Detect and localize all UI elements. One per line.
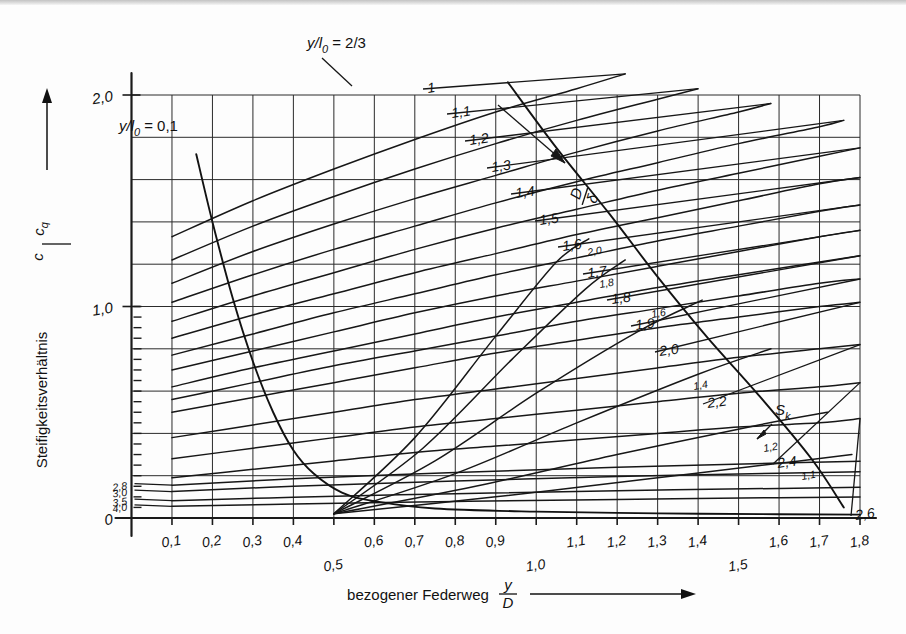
x-tick-label: 0,1: [160, 532, 182, 551]
x-tick-label: 0,8: [444, 532, 466, 551]
x-tick-label: 1,6: [767, 532, 789, 551]
curve-label-leader: [773, 383, 860, 464]
curve-label-leader: [703, 345, 860, 404]
curve-label-leader: [135, 499, 172, 501]
curve-label-sk: 2,0: [585, 244, 603, 259]
x-fraction-denominator: D: [503, 594, 514, 611]
curve-h0t: [172, 103, 771, 283]
x-axis-fraction: yD: [499, 576, 517, 611]
x-tick-label: 0,2: [201, 532, 223, 551]
x-axis-title-text: bezogener Federweg: [347, 586, 489, 603]
curve-label-sk: 1,6: [650, 306, 667, 320]
curve-h0t: [172, 256, 860, 387]
curve-label-h0t: 1,6: [561, 235, 583, 254]
x-tick-label: 1,5: [727, 556, 749, 575]
y-fraction-numerator: c: [29, 253, 46, 261]
curve-label-h0t: 2,0: [657, 340, 680, 359]
curve-label-h0t: 1,1: [450, 102, 472, 121]
arrow-pointer-head-icon: [757, 430, 766, 439]
annotation-text: y/l0= 2/3: [306, 34, 366, 55]
curve-h0t: [172, 279, 860, 400]
nomogram-chart: 11,11,21,31,41,51,61,71,81,92,02,22,42,6…: [0, 0, 906, 634]
x-tick-label: 0,3: [241, 532, 263, 551]
x-tick-label: 1,3: [646, 532, 668, 551]
ratio-fraction: Dδ: [565, 182, 603, 210]
curve-label-h0t: 1: [426, 79, 436, 96]
curve-h0t: [172, 120, 844, 302]
x-tick-label: 1,4: [686, 532, 708, 551]
boundary-curve-y-l0-0-1: [196, 154, 860, 514]
curve-h0t: [172, 148, 860, 321]
annotation-leader: [322, 58, 352, 86]
x-tick-labels: 0,10,20,30,40,50,60,70,80,91,01,11,21,31…: [160, 531, 870, 574]
curve-label-sk: 1,8: [598, 276, 615, 290]
curve-label-leader: [423, 74, 625, 89]
sk-label: Sk: [775, 401, 791, 422]
x-tick-label: 0,9: [484, 532, 506, 551]
curve-label-h0t-flat: 4,0: [112, 500, 128, 514]
boundary-curve-y-l0-2-3: [508, 82, 844, 507]
curve-label-h0t: 1,4: [514, 182, 536, 201]
curve-label-h0t: 2,4: [775, 452, 798, 471]
curve-label-leader: [135, 505, 172, 507]
curve-label-h0t: 1,2: [468, 129, 490, 148]
curve-label-h0t: 1,3: [490, 156, 512, 175]
curve-labels: 11,11,21,31,41,51,61,71,81,92,02,22,42,6…: [111, 79, 876, 523]
curve-h0t: [172, 302, 860, 412]
x-tick-label: 1,2: [606, 532, 628, 551]
x-tick-label: 0,7: [403, 531, 426, 550]
figure-root: 11,11,21,31,41,51,61,71,81,92,02,22,42,6…: [0, 0, 906, 634]
y-tick-labels: 01,02,0: [90, 87, 115, 528]
curve-label-h0t: 1,5: [538, 209, 560, 228]
curve-label-h0t: 1,8: [610, 288, 632, 307]
up-arrow-head-icon: [42, 88, 52, 103]
x-fraction-numerator: y: [503, 576, 513, 593]
y-axis-title-text: Steifigkeitsverhältnis: [33, 332, 50, 469]
x-tick-label: 1,0: [525, 556, 547, 575]
y-axis-fraction: ccq: [29, 221, 71, 260]
x-tick-label: 0,5: [322, 556, 344, 575]
axis-titles: Steifigkeitsverhältnisccqbezogener Feder…: [29, 88, 696, 611]
curve-label-h0t: 2,6: [853, 504, 876, 523]
curve-label-leader: [511, 148, 860, 194]
annotation-text: y/l0= 0,1: [118, 117, 178, 138]
data-curves: [172, 74, 860, 515]
curve-label-sk: 1,2: [762, 440, 779, 454]
x-axis-title: bezogener FederwegyD: [347, 576, 696, 611]
x-tick-label: 1,7: [808, 531, 831, 550]
annotation-y-l0-0-1: y/l0= 0,1: [118, 117, 178, 138]
x-tick-label: 1,8: [848, 532, 870, 551]
curve-label-h0t: 2,2: [705, 392, 728, 411]
y-tick-label: 1,0: [91, 299, 115, 319]
curve-label-leader: [447, 89, 698, 114]
x-tick-label: 0,4: [282, 532, 304, 551]
curve-label-leader: [135, 490, 172, 492]
curve-h0t: [172, 89, 698, 260]
right-arrow-head-icon: [681, 589, 696, 599]
annotation-y-l0-two-thirds: y/l0= 2/3: [306, 34, 366, 86]
x-tick-label: 0,6: [363, 532, 385, 551]
curve-label-leader: [655, 302, 860, 352]
curve-label-sk: 1,1: [800, 468, 816, 482]
curve-label-leader: [607, 256, 860, 300]
x-tick-label: 1,1: [565, 532, 587, 551]
y-fraction-denominator: cq: [30, 221, 50, 236]
y-tick-label: 2,0: [90, 87, 115, 107]
curve-label-leader: [583, 230, 860, 274]
y-axis-title: Steifigkeitsverhältnisccq: [29, 88, 71, 468]
curve-label-sk: 1,4: [692, 378, 709, 392]
curve-label-leader: [135, 484, 172, 486]
